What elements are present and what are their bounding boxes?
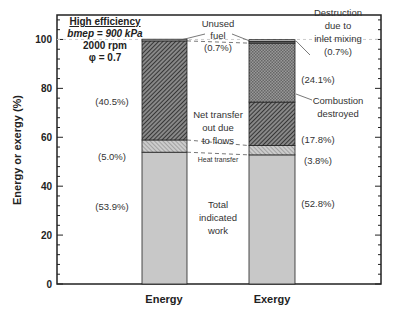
annot-destr-2: due to xyxy=(325,20,351,31)
leader-inlet-mixing xyxy=(296,41,310,55)
annot-work-3: work xyxy=(207,225,228,236)
bar-segment-energy-net-transfer-out-due-to-flows xyxy=(142,41,187,140)
annot-work-1: Total xyxy=(208,199,228,210)
y-tick-label: 100 xyxy=(35,34,52,45)
label-exergy-heat-transfer: (3.8%) xyxy=(304,155,332,166)
annot-destr-3: inlet mixing xyxy=(314,33,362,44)
y-tick-label: 0 xyxy=(46,279,52,290)
x-label-exergy: Exergy xyxy=(254,293,292,305)
leader-combustion xyxy=(296,94,312,100)
bar-segment-exergy-total-indicated-work xyxy=(249,155,295,284)
y-tick-label: 80 xyxy=(41,83,53,94)
annot-heat: Heat transfer xyxy=(198,156,239,163)
conditions-phi: φ = 0.7 xyxy=(89,52,122,63)
leader-unused-exergy xyxy=(232,34,249,41)
bar-segment-energy-heat-transfer xyxy=(142,140,187,152)
conditions-rpm: 2000 rpm xyxy=(83,40,127,51)
label-exergy-combustion: (24.1%) xyxy=(301,74,334,85)
annot-net-1: Net transfer xyxy=(193,109,243,120)
x-label-energy: Energy xyxy=(145,293,183,305)
label-exergy-net-transfer: (17.8%) xyxy=(301,134,334,145)
label-energy-work: (53.9%) xyxy=(95,201,128,212)
stacked-bar-chart: 020406080100 Energy or exergy (%) High e… xyxy=(0,0,395,315)
bar-segment-exergy-net-transfer-out-due-to-flows xyxy=(249,102,295,146)
conditions-heading: High efficiency xyxy=(69,16,141,27)
annot-unused-3: (0.7%) xyxy=(204,42,232,53)
y-tick-label: 40 xyxy=(41,181,53,192)
y-axis-label: Energy or exergy (%) xyxy=(11,95,23,205)
annot-net-2: out due xyxy=(202,122,234,133)
annot-work-2: indicated xyxy=(199,212,237,223)
label-exergy-work: (52.8%) xyxy=(301,198,334,209)
y-tick-label: 20 xyxy=(41,230,53,241)
dashed-connector-work xyxy=(187,152,249,155)
annot-comb-2: destroyed xyxy=(317,108,359,119)
annot-destr-1: Destruction xyxy=(314,7,362,18)
bar-segment-exergy-combustion-destroyed xyxy=(249,43,295,102)
conditions-bmep: bmep = 900 kPa xyxy=(67,28,143,39)
label-energy-heat-transfer: (5.0%) xyxy=(98,151,126,162)
annot-destr-4: (0.7%) xyxy=(324,46,352,57)
bar-segment-exergy-heat-transfer xyxy=(249,146,295,155)
label-energy-net-transfer: (40.5%) xyxy=(95,96,128,107)
bar-segment-exergy-unused-fuel xyxy=(249,40,295,42)
bar-segment-energy-total-indicated-work xyxy=(142,152,187,284)
y-tick-label: 60 xyxy=(41,132,53,143)
annot-net-3: to flows xyxy=(202,135,234,146)
annot-comb-1: Combustion xyxy=(313,95,364,106)
annot-unused-2: fuel xyxy=(210,30,225,41)
annot-unused-1: Unused xyxy=(202,18,235,29)
